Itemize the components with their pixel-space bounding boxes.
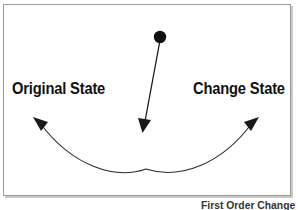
- figure-caption: First Order Change: [201, 200, 295, 210]
- diagram-canvas: [0, 0, 298, 210]
- origin-dot: [154, 31, 166, 43]
- downward-arrowhead: [138, 118, 151, 133]
- label-original-state: Original State: [12, 81, 105, 97]
- curve-left-arrowhead: [33, 117, 48, 131]
- curve-right-arrowhead: [244, 117, 259, 131]
- label-change-state: Change State: [193, 81, 285, 97]
- downward-arrow: [138, 43, 160, 133]
- figure-root: Original State Change State First Order …: [0, 0, 298, 210]
